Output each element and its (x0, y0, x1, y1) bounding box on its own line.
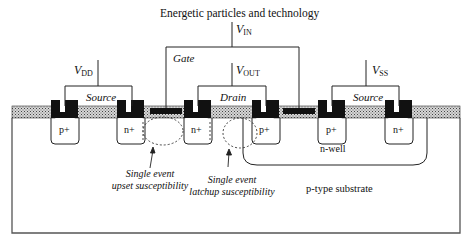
annotation-sel: Single event latchup susceptibility (182, 174, 282, 198)
diffusion-label-n-plus-left: n+ (124, 125, 135, 135)
substrate-label: p-type substrate (306, 184, 373, 195)
source-right-label: Source (353, 92, 383, 103)
terminal-vdd: VDD (74, 64, 93, 78)
diffusion-label-p-plus-right: p+ (326, 125, 337, 135)
diffusion-label-n-plus-drain: n+ (191, 125, 202, 135)
annotation-arrows (150, 147, 232, 168)
diffusion-label-p-plus-drain: p+ (259, 125, 270, 135)
diffusion-label-n-plus-right: n+ (393, 125, 404, 135)
drain-label: Drain (220, 92, 246, 103)
terminal-vin: VIN (236, 23, 252, 37)
diagram-title: Energetic particles and technology (160, 8, 319, 20)
terminal-vout: VOUT (236, 64, 260, 78)
n-well-label: n-well (320, 144, 346, 154)
diffusion-label-p-plus-left: p+ (59, 125, 70, 135)
source-left-label: Source (86, 92, 116, 103)
gate-label: Gate (173, 53, 194, 64)
terminal-vss: VSS (372, 64, 388, 78)
diffusions (51, 118, 427, 165)
